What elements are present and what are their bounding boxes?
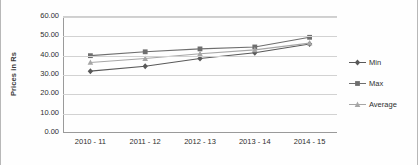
legend-marker-square-icon <box>349 79 366 88</box>
gridline <box>63 17 337 18</box>
gridline <box>63 94 337 95</box>
legend-item-average[interactable]: Average <box>349 94 415 115</box>
y-axis-tick-label: 60.00 <box>21 12 59 20</box>
y-axis-tick-label: 30.00 <box>21 70 59 78</box>
chart-legend: MinMaxAverage <box>349 52 415 115</box>
legend-item-label: Max <box>369 79 383 88</box>
data-point-marker <box>143 63 148 69</box>
y-axis-tick-label: 50.00 <box>21 31 59 39</box>
y-axis-tick-label: 0.00 <box>21 128 59 136</box>
legend-marker-diamond-icon <box>349 58 366 67</box>
plot-area <box>63 16 337 133</box>
y-axis-tick-label: 10.00 <box>21 109 59 117</box>
line-chart-figure: Prices in Rs 0.0010.0020.0030.0040.0050.… <box>0 0 418 165</box>
legend-item-label: Average <box>369 100 397 109</box>
gridline <box>63 56 337 57</box>
series-min <box>88 41 313 74</box>
legend-item-label: Min <box>369 58 381 67</box>
gridline <box>63 75 337 76</box>
x-axis-tick-label: 2012 - 13 <box>184 137 216 146</box>
y-axis-tick-label: 20.00 <box>21 89 59 97</box>
y-axis-tick-labels: 0.0010.0020.0030.0040.0050.0060.00 <box>21 10 59 134</box>
data-point-marker <box>88 68 93 74</box>
data-point-marker <box>143 49 148 54</box>
legend-marker-triangle-icon <box>349 100 366 109</box>
x-axis-tick-label: 2010 - 11 <box>75 137 106 146</box>
x-axis-tick-label: 2014 - 15 <box>294 137 326 146</box>
x-axis-tick-labels: 2010 - 112011 - 122012 - 132013 - 142014… <box>63 137 337 151</box>
gridline <box>63 36 337 37</box>
gridline <box>63 114 337 115</box>
legend-item-max[interactable]: Max <box>349 73 415 94</box>
data-point-marker <box>198 47 203 52</box>
legend-item-min[interactable]: Min <box>349 52 415 73</box>
x-axis-tick-label: 2013 - 14 <box>239 137 271 146</box>
y-axis-tick-label: 40.00 <box>21 51 59 59</box>
y-axis-title: Prices in Rs <box>9 34 18 114</box>
x-axis-tick-label: 2011 - 12 <box>130 137 161 146</box>
